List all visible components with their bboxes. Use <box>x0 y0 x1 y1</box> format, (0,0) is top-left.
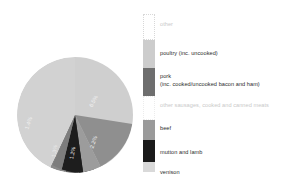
legend: other poultry (inc. uncooked) pork (inc.… <box>143 14 289 174</box>
legend-label-pork-detail: (inc. cooked/uncooked bacon and ham) <box>160 81 260 88</box>
legend-swatch-other-sausages <box>143 96 155 120</box>
pie-graphic <box>17 57 133 173</box>
legend-swatch-pork <box>143 68 155 96</box>
legend-swatch-other <box>143 14 155 40</box>
pie-chart: 6.5% 2.2% 1.2% 1.3% 1.4% <box>17 57 133 173</box>
legend-label-poultry: poultry (inc. uncooked) <box>160 50 218 57</box>
legend-label-other: other <box>160 21 173 28</box>
chart-canvas: 6.5% 2.2% 1.2% 1.3% 1.4% other poultry (… <box>0 0 290 188</box>
legend-label-beef: beef <box>160 125 171 132</box>
legend-swatch-mutton-and-lamb <box>143 140 155 162</box>
legend-label-venison: venison <box>160 169 180 176</box>
legend-label-pork: pork <box>160 73 171 80</box>
legend-color-bar <box>143 14 155 172</box>
legend-label-mutton-and-lamb: mutton and lamb <box>160 149 202 156</box>
legend-label-other-sausages: other sausages, cooked and canned meats <box>160 102 269 109</box>
legend-swatch-poultry <box>143 40 155 68</box>
legend-swatch-venison <box>143 162 155 172</box>
legend-swatch-beef <box>143 120 155 140</box>
